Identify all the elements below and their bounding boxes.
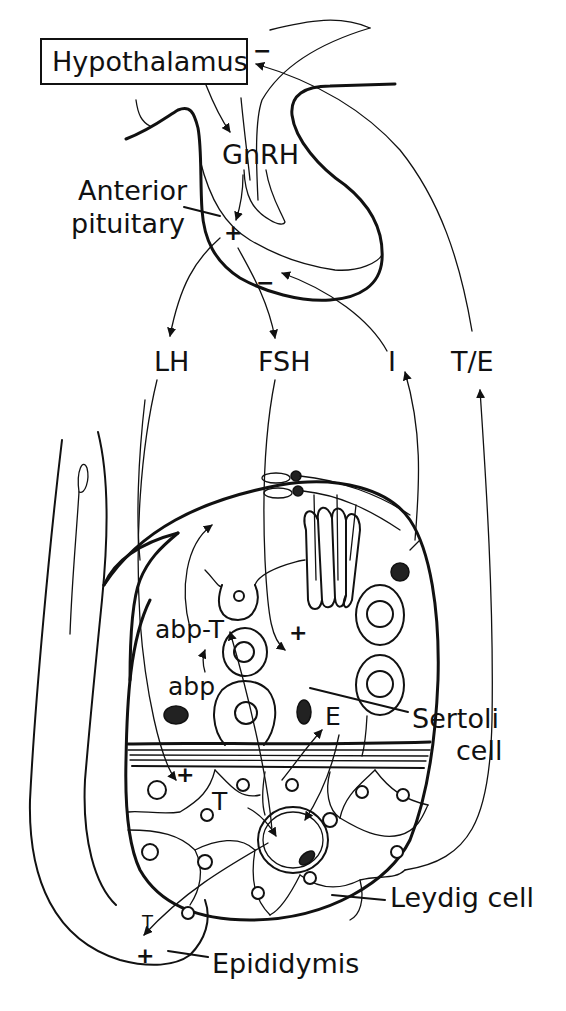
abp-t-to-lumen-arrow <box>185 525 212 628</box>
inhibin-negative-feedback-sign: − <box>256 270 274 295</box>
basement-membrane <box>128 742 430 768</box>
hypothalamus-label: Hypothalamus <box>52 46 248 77</box>
fsh-label: FSH <box>258 346 311 377</box>
epididymis-stimulation-sign: + <box>136 943 154 968</box>
abp-to-abp-t-arrow <box>203 650 205 672</box>
testosterone-leydig-label: T <box>211 787 228 816</box>
anterior-pituitary-label-line2: pituitary <box>71 208 185 239</box>
pituitary-to-lh-arrow <box>170 238 220 336</box>
spermatid-bundle <box>304 495 360 609</box>
estradiol-to-leydig-arrow <box>305 735 339 820</box>
hpg-axis-diagram: Hypothalamus − GnRH Anterior pituitary +… <box>0 0 566 1011</box>
hypothalamus-to-gnrh-arrow <box>206 85 230 132</box>
anterior-pituitary-label-line1: Anterior <box>78 175 188 206</box>
abp-t-label: abp-T <box>155 615 225 644</box>
sertoli-label-line2: cell <box>456 735 502 766</box>
estradiol-label: E <box>325 702 341 731</box>
sertoli-germ-cells <box>164 540 420 756</box>
epididymis-label: Epididymis <box>212 948 359 979</box>
testosterone-estrogen-label: T/E <box>450 346 494 377</box>
abp-label: abp <box>168 672 215 701</box>
leydig-pointer <box>332 895 385 900</box>
fsh-to-sertoli-arrow <box>264 380 285 650</box>
inhibin-label: I <box>388 346 396 377</box>
lh-label: LH <box>154 346 189 377</box>
fsh-sertoli-stimulation-sign: + <box>289 620 307 645</box>
gnrh-label: GnRH <box>222 139 299 170</box>
leydig-cells <box>128 770 428 920</box>
leydig-label: Leydig cell <box>390 882 534 913</box>
hypothalamus-negative-feedback-sign: − <box>253 38 271 63</box>
pituitary-stimulation-sign: + <box>224 220 242 245</box>
testosterone-epididymis-label: T <box>141 911 154 932</box>
sertoli-label-line1: Sertoli <box>412 703 499 734</box>
gnrh-to-pituitary-arrow <box>236 175 243 220</box>
hypothalamus-box: Hypothalamus <box>41 39 248 84</box>
